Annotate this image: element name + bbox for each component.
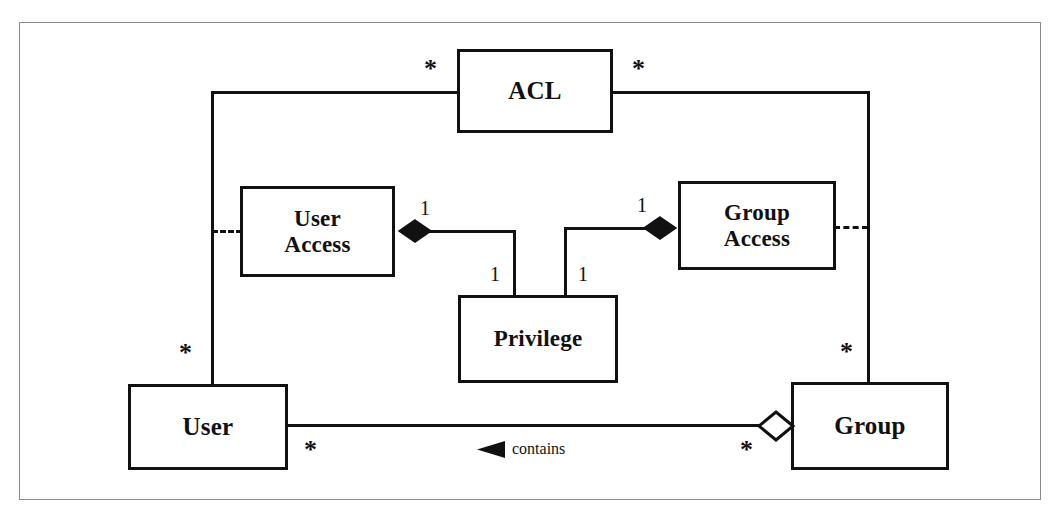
multiplicity-group-top: *: [840, 339, 853, 365]
line-groupaccess-privilege-horizontal: [564, 227, 647, 230]
diagram-canvas: ACL User Access Group Access Privilege U…: [0, 0, 1059, 515]
line-useraccess-privilege-horizontal: [428, 230, 516, 233]
line-right-rail-vertical: [867, 91, 870, 384]
class-label-group: Group: [834, 412, 905, 440]
multiplicity-group-left: *: [740, 437, 753, 463]
hollow-diamond-group: [757, 410, 795, 442]
role-label-contains: contains: [512, 441, 565, 457]
class-box-privilege[interactable]: Privilege: [458, 295, 618, 383]
multiplicity-useraccess-right: 1: [420, 198, 430, 218]
line-useraccess-privilege-vertical: [513, 230, 516, 297]
line-useraccess-dashed-stub: [212, 230, 242, 233]
line-acl-left-horizontal: [211, 91, 459, 94]
class-label-acl: ACL: [508, 77, 561, 105]
class-label-user: User: [183, 413, 234, 441]
class-label-privilege: Privilege: [494, 326, 583, 352]
line-left-rail-vertical: [211, 91, 214, 386]
line-groupaccess-privilege-vertical: [564, 227, 567, 297]
multiplicity-user-top: *: [179, 340, 192, 366]
contains-direction-triangle: [477, 441, 506, 458]
filled-diamond-groupaccess: [643, 216, 677, 240]
multiplicity-groupaccess-left: 1: [637, 195, 647, 215]
class-box-acl[interactable]: ACL: [457, 49, 613, 133]
class-box-group[interactable]: Group: [791, 382, 949, 470]
line-user-group-horizontal: [287, 424, 760, 427]
class-box-group-access[interactable]: Group Access: [678, 181, 836, 270]
line-groupaccess-dashed-stub: [834, 226, 868, 229]
class-label-user-access: User Access: [284, 206, 350, 258]
multiplicity-user-right: *: [304, 437, 317, 463]
multiplicity-acl-left: *: [424, 56, 437, 82]
multiplicity-privilege-left: 1: [490, 264, 500, 284]
multiplicity-acl-right: *: [632, 56, 645, 82]
class-box-user-access[interactable]: User Access: [240, 186, 395, 277]
line-acl-right-horizontal: [611, 91, 870, 94]
filled-diamond-useraccess: [398, 219, 432, 243]
class-box-user[interactable]: User: [128, 384, 288, 470]
class-label-group-access: Group Access: [724, 200, 790, 252]
multiplicity-privilege-right: 1: [578, 264, 588, 284]
